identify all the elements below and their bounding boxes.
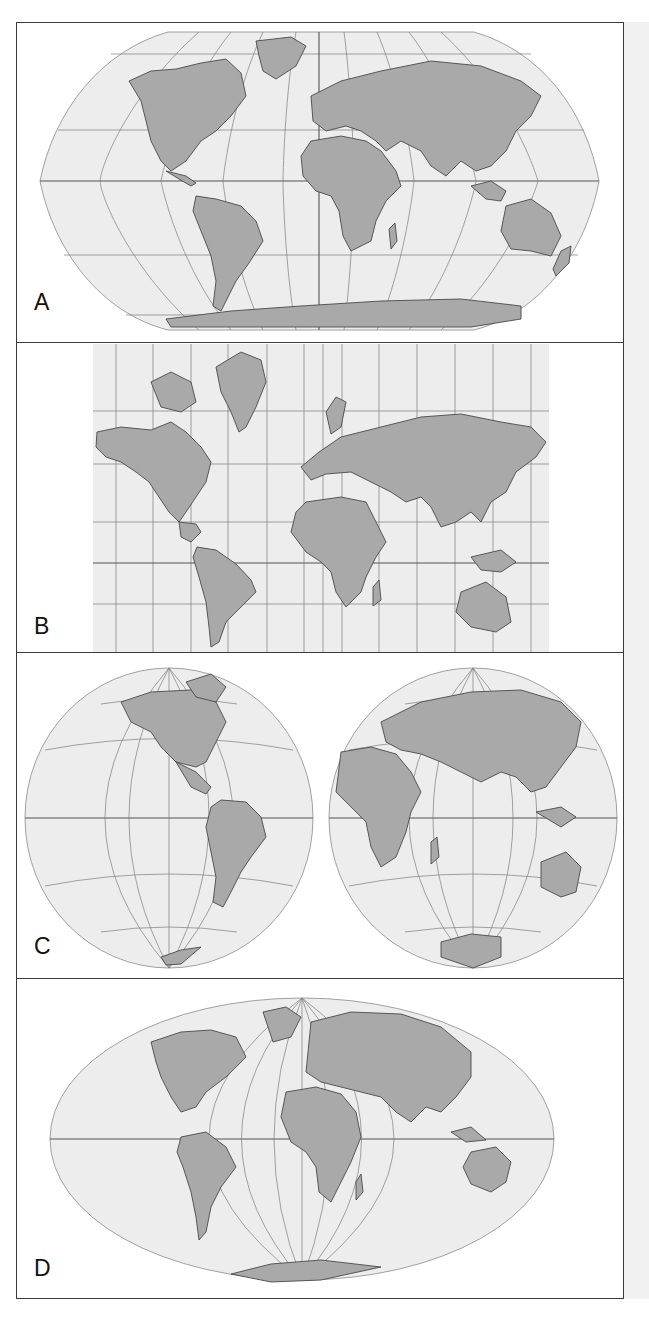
western-hemisphere-globe xyxy=(25,668,313,968)
figure-frame: A xyxy=(16,22,624,1299)
page-margin-strip xyxy=(624,22,649,1299)
panel-c: C xyxy=(17,652,623,978)
panel-label-c: C xyxy=(34,935,51,958)
panel-d: D xyxy=(17,978,623,1298)
panel-label-b: B xyxy=(34,615,49,638)
panel-label-a: A xyxy=(34,291,49,314)
panel-b: B xyxy=(17,342,623,652)
eastern-hemisphere-globe xyxy=(329,668,617,968)
robinson-map xyxy=(17,23,623,342)
panel-label-d: D xyxy=(34,1257,51,1280)
mercator-map xyxy=(17,343,623,653)
mollweide-map xyxy=(17,979,623,1299)
hemispheres-map xyxy=(17,653,623,979)
panel-a: A xyxy=(17,23,623,342)
